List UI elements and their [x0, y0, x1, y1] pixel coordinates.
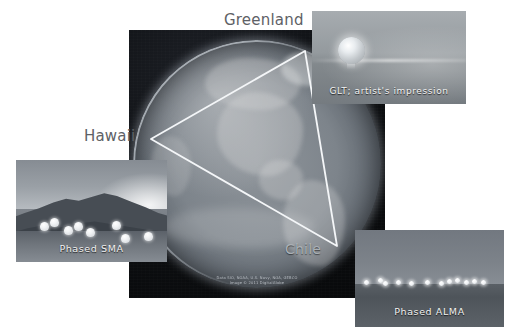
alma-antenna-1 — [364, 280, 369, 285]
triangle-outline — [151, 51, 337, 246]
alma-antenna-4 — [396, 280, 401, 285]
alma-antenna-3 — [383, 281, 388, 286]
glt-photo-panel: GLT; artist's impression — [312, 11, 466, 104]
sma-antenna-6 — [112, 221, 121, 230]
sma-caption: Phased SMA — [16, 243, 167, 254]
alma-antenna-5 — [409, 281, 414, 286]
alma-antenna-7 — [439, 281, 444, 286]
globe-credit-line-2: Image © 2011 DigitalGlobe — [129, 281, 385, 287]
alma-antenna-11 — [472, 279, 477, 284]
alma-caption: Phased ALMA — [355, 306, 504, 317]
label-hawaii: Hawaii — [84, 127, 135, 145]
sma-antenna-2 — [50, 218, 59, 227]
label-chile: Chile — [285, 241, 321, 257]
alma-antenna-12 — [481, 280, 486, 285]
label-greenland: Greenland — [224, 11, 304, 29]
glt-antenna-dish — [338, 37, 365, 64]
alma-antenna-10 — [464, 280, 469, 285]
glt-caption: GLT; artist's impression — [312, 86, 466, 96]
sma-antenna-3 — [64, 226, 73, 235]
alma-antenna-8 — [447, 279, 452, 284]
sma-antenna-7 — [121, 234, 130, 243]
figure-root: Data SIO, NOAA, U.S. Navy, NGA, GEBCO Im… — [0, 0, 518, 335]
alma-sky — [355, 230, 504, 286]
sma-antenna-1 — [40, 222, 49, 231]
alma-antenna-9 — [455, 278, 460, 283]
glt-horizon-line — [312, 59, 466, 62]
alma-antenna-6 — [425, 280, 430, 285]
globe-credit: Data SIO, NOAA, U.S. Navy, NGA, GEBCO Im… — [129, 276, 385, 287]
sma-antenna-8 — [144, 232, 153, 241]
sma-antenna-4 — [74, 222, 83, 231]
sma-photo-panel: Phased SMA — [16, 160, 167, 262]
sma-antenna-5 — [86, 228, 95, 237]
alma-photo-panel: Phased ALMA — [355, 230, 504, 327]
